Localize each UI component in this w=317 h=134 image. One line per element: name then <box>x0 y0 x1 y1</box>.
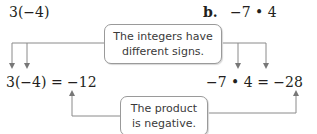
callout-product-negative: The product is negative. <box>120 96 208 134</box>
callout-text-line: different signs. <box>105 44 221 59</box>
part-a-result-equation: 3(−4) = −12 <box>6 74 97 90</box>
callout-text-line: is negative. <box>121 116 207 131</box>
part-b-label: b. <box>203 4 218 20</box>
callout-different-signs: The integers have different signs. <box>104 24 222 64</box>
part-a-expression: 3(−4) <box>9 4 49 20</box>
part-b-result-equation: −7 • 4 = −28 <box>206 74 303 90</box>
part-b-expression: −7 • 4 <box>230 4 277 20</box>
callout-text-line: The product <box>121 101 207 116</box>
callout-text-line: The integers have <box>105 29 221 44</box>
